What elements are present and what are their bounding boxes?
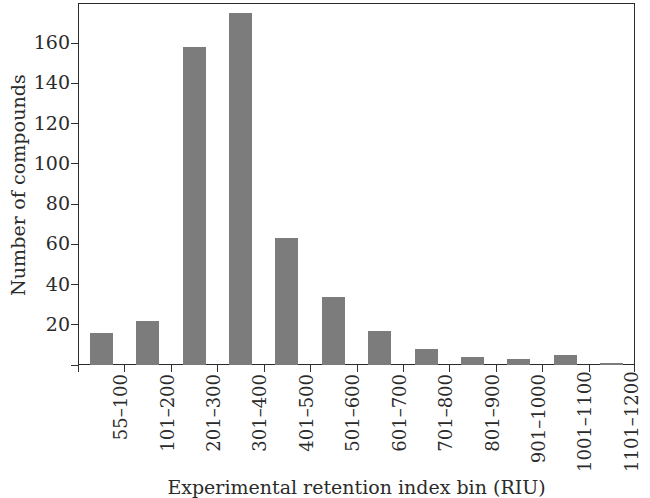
x-axis-tick-mark: [171, 365, 172, 372]
y-axis-tick-label: 40: [28, 275, 70, 294]
x-axis-tick-label: 1001–1100: [574, 374, 596, 472]
x-axis-tick-label: 55–100: [110, 374, 132, 472]
x-axis-tick-mark: [403, 365, 404, 372]
bar: [275, 238, 298, 365]
y-axis-tick-mark: [71, 284, 78, 285]
y-axis-tick-label: 60: [28, 234, 70, 253]
x-axis-tick-label: 501–600: [342, 374, 364, 472]
x-axis-tick-mark: [496, 365, 497, 372]
bar: [554, 355, 577, 365]
y-axis-tick-label: 160: [28, 33, 70, 52]
x-axis-tick-marks: [78, 365, 635, 373]
bar: [183, 47, 206, 365]
y-axis-tick-mark: [71, 244, 78, 245]
x-axis-tick-label: 601–700: [389, 374, 411, 472]
bar: [322, 297, 345, 365]
y-axis-tick-mark: [71, 123, 78, 124]
x-axis-title: Experimental retention index bin (RIU): [78, 476, 635, 498]
y-axis-tick-mark: [71, 204, 78, 205]
x-axis-tick-labels: 55–100101–200201–300301–400401–500501–60…: [78, 374, 635, 472]
x-axis-tick-mark: [357, 365, 358, 372]
x-axis-tick-mark: [124, 365, 125, 372]
x-axis-tick-label: 1101–1200: [621, 374, 643, 472]
bar: [415, 349, 438, 365]
bars-layer: [78, 3, 635, 365]
x-axis-tick-label: 201–300: [203, 374, 225, 472]
x-axis-tick-mark: [78, 365, 79, 372]
x-axis-tick-mark: [217, 365, 218, 372]
y-axis-tick-label: 120: [28, 114, 70, 133]
bar: [229, 13, 252, 365]
y-axis-tick-label: 20: [28, 315, 70, 334]
x-axis-tick-mark: [449, 365, 450, 372]
x-axis-tick-label: 301–400: [249, 374, 271, 472]
bar: [461, 357, 484, 365]
chart-page: Number of compounds 20406080100120140160…: [0, 0, 650, 498]
x-axis-tick-label: 401–500: [296, 374, 318, 472]
y-axis-tick-label: 140: [28, 73, 70, 92]
x-axis-tick-label: 901–1000: [528, 374, 550, 472]
x-axis-tick-label: 701–800: [435, 374, 457, 472]
y-axis-tick-mark: [71, 43, 78, 44]
y-axis-tick-mark: [71, 324, 78, 325]
bar: [90, 333, 113, 365]
y-axis-tick-labels: 20406080100120140160: [26, 0, 70, 380]
x-axis-tick-mark: [264, 365, 265, 372]
x-axis-tick-label: 101–200: [157, 374, 179, 472]
y-axis-tick-mark: [71, 365, 78, 366]
y-axis-tick-mark: [71, 163, 78, 164]
y-axis-tick-label: 80: [28, 194, 70, 213]
x-axis-tick-mark: [542, 365, 543, 372]
x-axis-tick-mark: [310, 365, 311, 372]
bar: [368, 331, 391, 365]
y-axis-tick-mark: [71, 83, 78, 84]
x-axis-tick-label: 801–900: [482, 374, 504, 472]
bar: [136, 321, 159, 365]
y-axis-tick-label: 100: [28, 154, 70, 173]
